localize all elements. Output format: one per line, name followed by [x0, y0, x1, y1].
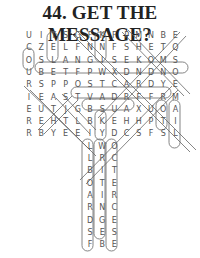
grid-letter: W	[96, 67, 108, 79]
grid-letter: R	[108, 190, 120, 202]
grid-letter: U	[23, 67, 35, 79]
grid-letter: W	[96, 141, 108, 153]
grid-letter: M	[169, 92, 181, 104]
grid-letter: M	[133, 30, 145, 42]
grid-letter: F	[133, 92, 145, 104]
grid-letter: T	[157, 42, 169, 54]
grid-letter: V	[84, 92, 96, 104]
grid-letter: U	[108, 104, 120, 116]
grid-letter: F	[108, 30, 120, 42]
grid-letter: E	[108, 239, 120, 251]
grid-letter: Z	[35, 42, 47, 54]
grid-letter: K	[96, 116, 108, 128]
grid-letter: E	[108, 178, 120, 190]
grid-letter: E	[169, 79, 181, 91]
grid-letter: J	[60, 104, 72, 116]
grid-letter: T	[47, 30, 59, 42]
grid-letter: T	[96, 79, 108, 91]
grid-letter: R	[121, 92, 133, 104]
grid-letter: L	[84, 141, 96, 153]
grid-letter: A	[169, 104, 181, 116]
grid-letter: F	[84, 30, 96, 42]
grid-letter: X	[108, 67, 120, 79]
grid-letter: N	[96, 42, 108, 54]
grid-letter: T	[96, 178, 108, 190]
grid-letter: I	[96, 55, 108, 67]
grid-letter: R	[133, 79, 145, 91]
grid-letter: A	[47, 92, 59, 104]
grid-letter: B	[157, 30, 169, 42]
grid-letter: G	[72, 104, 84, 116]
grid-letter: Y	[96, 128, 108, 140]
grid-letter: B	[35, 128, 47, 140]
grid-letter: L	[84, 153, 96, 165]
grid-letter: P	[60, 79, 72, 91]
grid-letter: E	[47, 67, 59, 79]
grid-letter: T	[157, 116, 169, 128]
grid-letter: O	[145, 55, 157, 67]
grid-letter: Y	[47, 128, 59, 140]
grid-letter: T	[72, 92, 84, 104]
grid-letter: C	[108, 202, 120, 214]
grid-letter: A	[121, 104, 133, 116]
grid-letter: R	[23, 116, 35, 128]
grid-letter: S	[121, 42, 133, 54]
grid-letter: U	[35, 104, 47, 116]
grid-letter: S	[169, 55, 181, 67]
grid-letter: S	[35, 55, 47, 67]
grid-letter: P	[121, 30, 133, 42]
grid-letter: L	[60, 42, 72, 54]
grid-letter: U	[145, 104, 157, 116]
grid-letter: I	[23, 92, 35, 104]
grid-letter: I	[35, 30, 47, 42]
grid-letter: R	[96, 153, 108, 165]
grid-letter: O	[169, 67, 181, 79]
grid-letter: A	[121, 79, 133, 91]
grid-letter: S	[96, 104, 108, 116]
grid-letter: E	[145, 42, 157, 54]
grid-letter: B	[84, 116, 96, 128]
grid-letter: O	[84, 178, 96, 190]
grid-letter: D	[121, 67, 133, 79]
grid-letter: M	[157, 55, 169, 67]
grid-letter: C	[108, 79, 120, 91]
grid-letter: H	[133, 116, 145, 128]
grid-letter: E	[108, 116, 120, 128]
grid-letter: K	[133, 55, 145, 67]
grid-letter: H	[47, 116, 59, 128]
grid-letter: R	[23, 128, 35, 140]
grid-letter: E	[169, 30, 181, 42]
grid-letter: B	[35, 67, 47, 79]
grid-letter: F	[145, 92, 157, 104]
grid-letter: N	[157, 67, 169, 79]
grid-letter: I	[84, 128, 96, 140]
grid-letter: E	[121, 55, 133, 67]
grid-letter: Q	[169, 42, 181, 54]
grid-letter: A	[96, 92, 108, 104]
grid-letter: K	[96, 30, 108, 42]
grid-letter: E	[108, 215, 120, 227]
grid-letter: P	[84, 67, 96, 79]
grid-letter: F	[84, 239, 96, 251]
grid-letter: F	[108, 42, 120, 54]
grid-letter: E	[60, 128, 72, 140]
grid-letter: F	[145, 128, 157, 140]
grid-letter: R	[84, 202, 96, 214]
grid-letter: L	[72, 116, 84, 128]
grid-letter: H	[121, 116, 133, 128]
grid-letter: P	[47, 79, 59, 91]
grid-letter: D	[84, 215, 96, 227]
grid-letter: N	[84, 42, 96, 54]
grid-letter: C	[121, 128, 133, 140]
grid-letter: T	[60, 67, 72, 79]
grid-letter: O	[72, 79, 84, 91]
grid-letter: S	[84, 227, 96, 239]
grid-letter: S	[108, 55, 120, 67]
grid-letter: S	[35, 79, 47, 91]
grid-letter: E	[35, 116, 47, 128]
grid-letter: X	[133, 104, 145, 116]
grid-letter: I	[96, 165, 108, 177]
grid-letter: D	[108, 92, 120, 104]
grid-letter: S	[108, 227, 120, 239]
grid-letter: L	[47, 55, 59, 67]
